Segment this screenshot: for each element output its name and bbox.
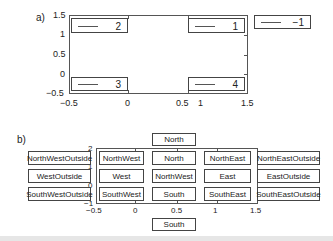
legend-southeast: SouthEast	[204, 187, 251, 201]
legend-line-icon	[78, 84, 98, 85]
legend-label: 4	[232, 79, 238, 90]
a-xtick-0.5: 0.5	[176, 99, 189, 108]
a-ytick-1: 1	[60, 30, 65, 39]
legend-bottom-left: 3	[71, 77, 128, 91]
a-ytick-neg0.5: −0.5	[46, 89, 64, 98]
legend-south-outside: South	[152, 218, 196, 231]
legend-northwest-outside: NorthWestOutside	[28, 151, 91, 165]
b-xtick-neg0.5: −0.5	[86, 206, 102, 215]
b-xtick-0.5: 0.5	[171, 206, 182, 215]
legend-northwest: NorthWest	[99, 151, 144, 165]
legend-bottom-right: 4	[188, 77, 245, 91]
legend-center: NorthWest	[152, 169, 196, 183]
a-ytick-1.5: 1.5	[53, 11, 66, 20]
a-ytick-0: 0	[60, 70, 65, 79]
legend-southwest-outside: SouthWestOutside	[28, 187, 91, 201]
legend-top-left: 2	[71, 18, 128, 33]
legend-northeast-outside: NorthEastOutside	[257, 151, 320, 165]
b-xtick-1: 1	[213, 206, 217, 215]
legend-north-outside: North	[152, 133, 196, 146]
legend-label: 2	[115, 20, 121, 31]
panel-a-label: a)	[36, 12, 45, 23]
legend-line-icon	[78, 26, 98, 27]
legend-southwest: SouthWest	[99, 187, 144, 201]
b-xtick-1.5: 1.5	[250, 206, 261, 215]
a-xtick-1: 1	[198, 99, 203, 108]
legend-west-outside: WestOutside	[28, 169, 91, 183]
legend-southeast-outside: SouthEastOutside	[257, 187, 320, 201]
legend-northeast: NorthEast	[204, 151, 251, 165]
a-ytick-0.5: 0.5	[53, 50, 66, 59]
legend-label: 1	[232, 20, 238, 31]
legend-outside: −1	[254, 15, 311, 29]
legend-east: East	[204, 169, 251, 183]
a-xtick-1.5: 1.5	[241, 99, 254, 108]
legend-line-icon	[195, 26, 215, 27]
legend-west: West	[99, 169, 144, 183]
panel-b-label: b)	[17, 134, 26, 145]
legend-top-right: 1	[188, 18, 245, 33]
legend-south: South	[152, 187, 196, 201]
bottom-divider	[0, 236, 333, 241]
a-xtick-0: 0	[125, 99, 130, 108]
legend-label: 3	[115, 79, 121, 90]
b-xtick-0: 0	[133, 206, 137, 215]
legend-line-icon	[261, 22, 281, 23]
legend-north: North	[152, 151, 196, 165]
legend-east-outside: EastOutside	[257, 169, 320, 183]
a-xtick-neg0.5: −0.5	[60, 99, 78, 108]
legend-line-icon	[195, 84, 215, 85]
legend-label: −1	[293, 17, 304, 28]
